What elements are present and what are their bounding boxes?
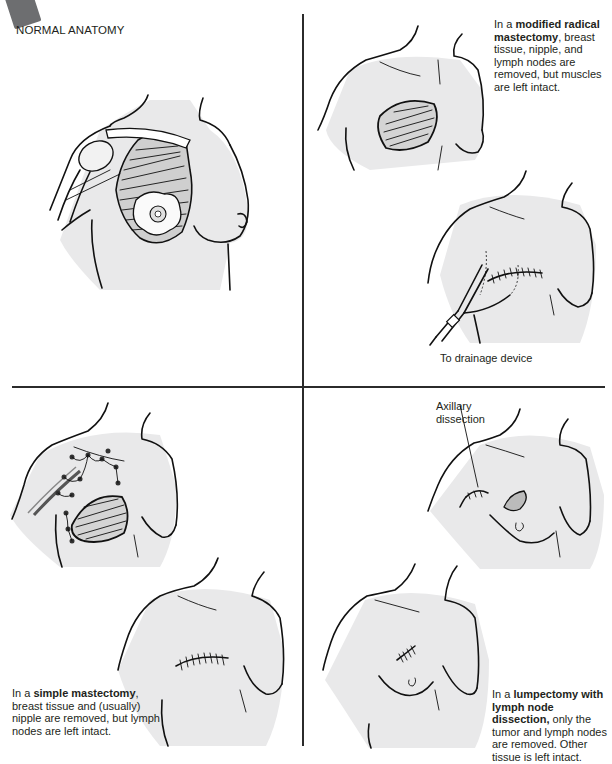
normal-anatomy-illustration [40,60,310,300]
lumpectomy-open-illustration [420,395,612,570]
simple-mastectomy-open-illustration [0,395,190,570]
caption-prefix: In a [494,18,515,30]
caption-lumpectomy: In a lumpectomy with lymph node dissecti… [492,688,612,764]
caption-term: simple mastectomy [33,687,135,699]
lumpectomy-closed-illustration [305,560,500,750]
horizontal-divider [12,386,605,388]
mrm-closed-with-drain-illustration [400,165,612,345]
caption-prefix: In a [492,688,513,700]
caption-simple-mastectomy: In a simple mastectomy, breast tissue an… [12,687,172,737]
panel-title: NORMAL ANATOMY [16,24,125,36]
caption-modified-radical-mastectomy: In a modified radical mastectomy, breast… [494,18,612,94]
label-drainage-device: To drainage device [440,352,532,365]
caption-prefix: In a [12,687,33,699]
mrm-open-excision-illustration [310,20,490,170]
